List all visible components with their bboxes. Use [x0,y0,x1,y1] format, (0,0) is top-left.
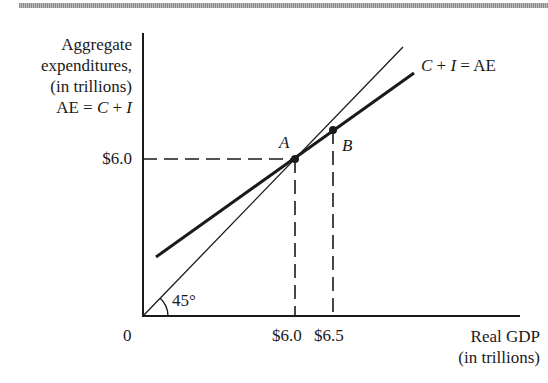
angle-arc [160,298,168,316]
y-axis-label-line3: (in trillions) [41,76,132,97]
origin-label: 0 [123,326,132,346]
curve-c: C [421,56,432,75]
ae-curve-label: C + I = AE [421,56,496,76]
angle-label: 45° [172,291,196,311]
y-axis-label-line2: expenditures, [41,55,132,76]
y-eq-plus: + [108,98,126,117]
y-eq-c: C [97,98,108,117]
y-eq-i: I [126,98,132,117]
point-b-marker [329,126,337,134]
curve-plus: + [432,56,450,75]
x-axis-label: Real GDP (in trillions) [458,326,540,368]
line-ae [156,73,414,257]
x-tick-65: $6.5 [314,326,344,346]
y-axis-equation: AE = C + I [41,97,132,118]
y-axis-label: Aggregate expenditures, (in trillions) A… [41,34,132,118]
y-eq-prefix: AE = [56,98,97,117]
point-b-label: B [342,136,352,156]
y-axis-label-line1: Aggregate [41,34,132,55]
x-tick-6: $6.0 [272,326,302,346]
line-45-degree [143,47,403,316]
x-axis-label-line1: Real GDP [458,326,540,347]
x-axis-label-line2: (in trillions) [458,347,540,368]
y-tick-6: $6.0 [102,149,132,169]
curve-eq: = AE [456,56,496,75]
point-a-marker [291,155,299,163]
point-a-label: A [279,133,289,153]
